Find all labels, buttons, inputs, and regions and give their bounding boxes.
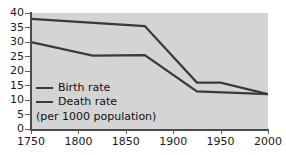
y-tick-mark [25, 27, 31, 28]
y-tick-mark [25, 100, 31, 101]
y-tick-label: 5 [2, 109, 24, 120]
y-tick-label: 25 [2, 51, 24, 62]
x-tick-mark [221, 129, 222, 134]
y-tick-label: 30 [2, 36, 24, 47]
y-tick-mark [25, 85, 31, 86]
x-tick-label: 1750 [11, 136, 51, 147]
x-tick-label: 1900 [153, 136, 193, 147]
x-tick-mark [78, 129, 79, 134]
x-tick-mark [31, 129, 32, 134]
legend-item-death-rate: Death rate [36, 96, 156, 107]
x-tick-label: 1850 [106, 136, 146, 147]
legend-label-birth-rate: Birth rate [58, 82, 110, 93]
x-tick-mark [268, 129, 269, 134]
legend-label-death-rate: Death rate [58, 96, 117, 107]
x-tick-mark [126, 129, 127, 134]
legend-swatch-birth-rate [36, 87, 53, 89]
birth-death-rate-line-chart: 0510152025303540 17501800185019001950200… [0, 0, 286, 155]
y-tick-label: 0 [2, 123, 24, 134]
y-tick-label: 35 [2, 22, 24, 33]
chart-legend: Birth rate Death rate (per 1000 populati… [36, 82, 156, 122]
legend-swatch-death-rate [36, 101, 53, 103]
x-tick-label: 2000 [248, 136, 286, 147]
x-tick-label: 1950 [201, 136, 241, 147]
y-tick-label: 10 [2, 94, 24, 105]
legend-note-units: (per 1000 population) [36, 111, 156, 122]
y-tick-mark [25, 71, 31, 72]
y-tick-mark [25, 42, 31, 43]
y-tick-mark [25, 13, 31, 14]
legend-item-birth-rate: Birth rate [36, 82, 156, 93]
x-axis-line [30, 129, 269, 131]
y-tick-mark [25, 114, 31, 115]
y-tick-mark [25, 56, 31, 57]
x-tick-mark [173, 129, 174, 134]
y-tick-label: 15 [2, 80, 24, 91]
y-tick-label: 20 [2, 65, 24, 76]
x-tick-label: 1800 [58, 136, 98, 147]
y-tick-label: 40 [2, 7, 24, 18]
